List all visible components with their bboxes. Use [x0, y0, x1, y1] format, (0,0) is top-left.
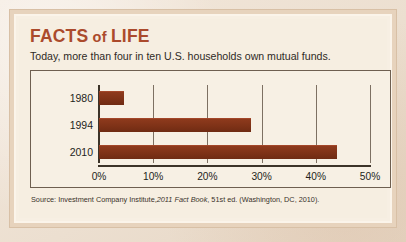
bar-2010: [99, 145, 337, 159]
scanned-page-background: FACTS of LIFE Today, more than four in t…: [0, 0, 406, 242]
x-axis-line: [98, 165, 371, 167]
source-title: 2011 Fact Book: [157, 195, 208, 204]
page-title: FACTS of LIFE: [30, 27, 377, 45]
x-tick-label: 50%: [360, 172, 380, 182]
subtitle: Today, more than four in ten U.S. househ…: [30, 50, 377, 63]
y-axis-label-1994: 1994: [31, 120, 99, 131]
y-axis-label-1980: 1980: [31, 93, 99, 104]
source-note: Source: Investment Company Institute,201…: [31, 195, 377, 204]
source-prefix: Source: Investment Company Institute,: [31, 195, 157, 204]
bar-1994: [99, 118, 251, 132]
chart-plot-area: 0%10%20%30%40%50%198019942010: [31, 71, 390, 187]
fact-card: FACTS of LIFE Today, more than four in t…: [19, 19, 387, 218]
title-facts: FACTS: [30, 26, 88, 46]
fact-card-frame: FACTS of LIFE Today, more than four in t…: [9, 9, 397, 228]
x-tick-label: 10%: [143, 172, 163, 182]
title-life: LIFE: [111, 26, 150, 46]
fact-card-inner-rule: FACTS of LIFE Today, more than four in t…: [14, 14, 392, 223]
title-of: of: [88, 29, 111, 45]
x-tick-label: 40%: [306, 172, 326, 182]
bar-chart: 0%10%20%30%40%50%198019942010: [30, 70, 391, 188]
x-tick-label: 20%: [197, 172, 217, 182]
x-tick-label: 0%: [92, 172, 107, 182]
gridline-50pct: [370, 85, 371, 163]
bar-1980: [99, 91, 124, 105]
source-suffix: , 51st ed. (Washington, DC, 2010).: [207, 195, 319, 204]
y-axis-label-2010: 2010: [31, 146, 99, 157]
x-tick-label: 30%: [251, 172, 271, 182]
